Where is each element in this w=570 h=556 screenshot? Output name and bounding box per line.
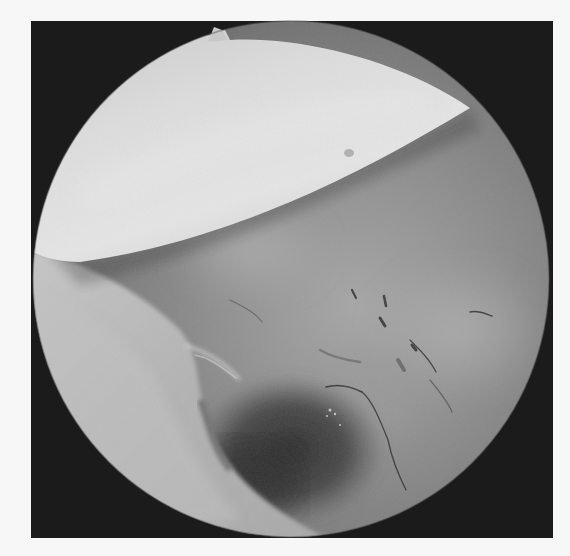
scope-scene (0, 0, 570, 556)
endoscopic-image: Grayscale endoscopic view of tissue insi… (0, 0, 570, 556)
